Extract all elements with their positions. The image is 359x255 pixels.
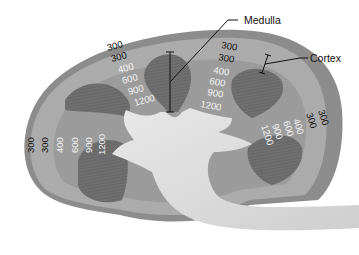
- kidney-diagram: Medulla Cortex 300 300 400 600 900 1200 …: [0, 0, 359, 255]
- cortex-label: Cortex: [310, 52, 342, 64]
- svg-text:300: 300: [25, 137, 36, 153]
- svg-text:1200: 1200: [96, 134, 107, 155]
- svg-text:400: 400: [54, 137, 65, 153]
- svg-text:600: 600: [69, 137, 80, 153]
- svg-text:300: 300: [39, 137, 50, 153]
- svg-text:900: 900: [83, 137, 94, 153]
- medulla-label: Medulla: [244, 14, 281, 26]
